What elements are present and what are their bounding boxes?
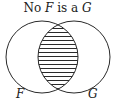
set-f-label: F <box>16 88 24 100</box>
set-g-label: G <box>88 88 98 100</box>
